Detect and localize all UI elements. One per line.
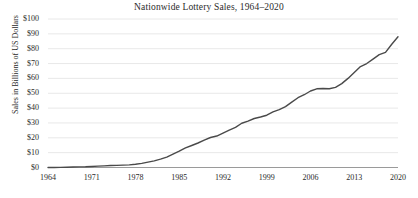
series-line-0 — [48, 37, 398, 168]
x-tick-label: 2020 — [378, 173, 418, 182]
plot-area — [0, 0, 418, 198]
y-tick-label: $100 — [5, 14, 39, 23]
x-tick-label: 1999 — [247, 173, 287, 182]
y-tick-label: $90 — [5, 29, 39, 38]
x-tick-label: 1971 — [72, 173, 112, 182]
y-tick-label: $80 — [5, 44, 39, 53]
y-tick-label: $60 — [5, 73, 39, 82]
x-tick-label: 1985 — [159, 173, 199, 182]
x-tick-label: 2013 — [334, 173, 374, 182]
y-tick-label: $70 — [5, 59, 39, 68]
y-tick-label: $40 — [5, 103, 39, 112]
y-tick-label: $30 — [5, 118, 39, 127]
y-tick-label: $50 — [5, 88, 39, 97]
data-series — [48, 37, 398, 168]
chart-container: Nationwide Lottery Sales, 1964–2020 Sale… — [0, 0, 418, 198]
y-tick-label: $0 — [5, 163, 39, 172]
y-tick-label: $20 — [5, 133, 39, 142]
x-tick-label: 2006 — [291, 173, 331, 182]
x-tick-label: 1978 — [116, 173, 156, 182]
x-tick-label: 1992 — [203, 173, 243, 182]
y-tick-label: $10 — [5, 148, 39, 157]
x-tick-label: 1964 — [28, 173, 68, 182]
